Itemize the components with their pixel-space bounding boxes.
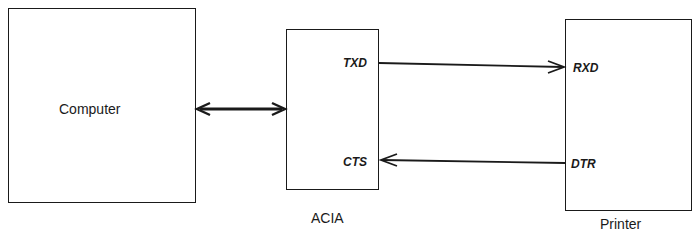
printer-dtr-pin-label: DTR — [571, 157, 596, 171]
bidirectional-bus-arrow — [197, 103, 285, 115]
dtr-to-cts-arrow — [381, 154, 565, 166]
acia-cts-pin-label: CTS — [343, 155, 367, 169]
txd-to-rxd-arrow — [379, 61, 564, 73]
acia-txd-pin-label: TXD — [343, 56, 367, 70]
printer-block — [565, 19, 692, 211]
printer-label: Printer — [600, 216, 641, 232]
acia-label: ACIA — [311, 210, 344, 226]
computer-label: Computer — [59, 101, 120, 117]
printer-rxd-pin-label: RXD — [573, 61, 598, 75]
